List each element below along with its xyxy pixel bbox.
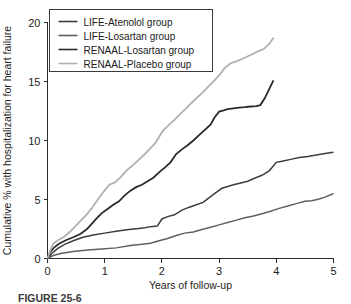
legend-label: LIFE-Losartan group (84, 31, 176, 42)
line-chart: 01234505101520Years of follow-upCumulati… (0, 0, 351, 304)
figure-container: 01234505101520Years of follow-upCumulati… (0, 0, 351, 304)
legend-label: LIFE-Atenolol group (84, 17, 173, 28)
x-tick-label: 1 (102, 265, 108, 277)
x-tick-label: 3 (216, 265, 222, 277)
series-line (48, 80, 274, 258)
legend-label: RENAAL-Losartan group (84, 45, 195, 56)
y-axis-title: Cumulative % with hospitalization for he… (1, 26, 13, 256)
x-tick-label: 4 (273, 265, 279, 277)
y-tick-label: 5 (34, 194, 40, 206)
x-tick-label: 0 (44, 265, 50, 277)
x-tick-label: 5 (330, 265, 336, 277)
figure-caption-strip: FIGURE 25-6 (0, 292, 351, 304)
x-tick-label: 2 (159, 265, 165, 277)
y-tick-label: 20 (28, 17, 40, 29)
y-tick-label: 10 (28, 135, 40, 147)
figure-caption: FIGURE 25-6 (18, 292, 82, 304)
y-tick-label: 0 (34, 253, 40, 265)
y-tick-label: 15 (28, 76, 40, 88)
x-axis-title: Years of follow-up (149, 279, 232, 291)
legend-label: RENAAL-Placebo group (84, 59, 192, 70)
